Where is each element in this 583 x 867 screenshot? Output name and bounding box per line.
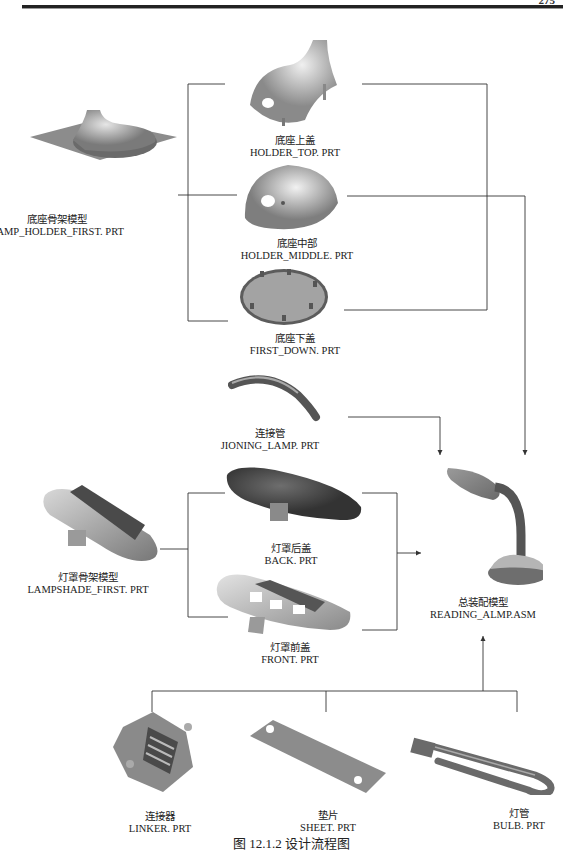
figure-caption: 图 12.1.2 设计流程图 (233, 833, 350, 852)
lamp-holder-first-model (25, 110, 185, 170)
label-back: 灯罩后盖BACK. PRT (264, 543, 317, 567)
holder-middle-part (243, 163, 343, 233)
label-front: 灯罩前盖FRONT. PRT (261, 642, 319, 666)
label-lampshade-first: 灯罩骨架模型LAMPSHADE_FIRST. PRT (27, 572, 148, 596)
label-assembly: 总装配模型READING_ALMP.ASM (430, 597, 536, 621)
front-part (215, 572, 355, 637)
holder-top-part (245, 40, 355, 130)
sheet-part (248, 718, 388, 803)
first-down-part (238, 265, 330, 327)
label-holder-middle: 底座中部HOLDER_MIDDLE. PRT (241, 238, 354, 262)
label-sheet: 垫片SHEET. PRT (300, 810, 356, 834)
linker-part (108, 712, 203, 797)
back-part (225, 465, 365, 535)
label-first-down: 底座下盖FIRST_DOWN. PRT (250, 333, 340, 357)
label-jioning-lamp: 连接管JIONING_LAMP. PRT (221, 428, 320, 452)
reading-lamp-assembly (443, 465, 543, 590)
label-bulb: 灯管BULB. PRT (493, 808, 545, 832)
lampshade-first-model (40, 480, 165, 565)
label-lamp-holder-first: 底座骨架模型LAMP_HOLDER_FIRST. PRT (0, 214, 124, 238)
label-holder-top: 底座上盖HOLDER_TOP. PRT (250, 135, 340, 159)
bulb-part (410, 735, 560, 795)
jioning-lamp-part (228, 375, 323, 425)
label-linker: 连接器LINKER. PRT (129, 811, 191, 835)
